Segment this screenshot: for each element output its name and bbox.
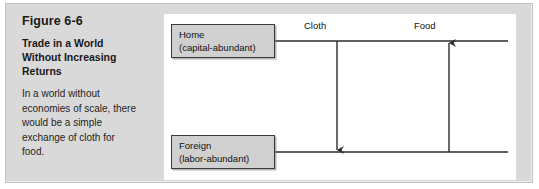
node-foreign-name: Foreign	[179, 140, 249, 153]
node-foreign-text: Foreign (labor-abundant)	[179, 140, 249, 165]
figure-panel: Figure 6-6 Trade in a World Without Incr…	[5, 3, 533, 183]
diagram-area: Home (capital-abundant) Foreign (labor-a…	[164, 14, 516, 180]
node-home-name: Home	[179, 29, 256, 42]
node-home-text: Home (capital-abundant)	[179, 29, 256, 54]
figure-caption: Figure 6-6 Trade in a World Without Incr…	[22, 14, 150, 160]
flow-label-cloth: Cloth	[304, 20, 326, 31]
figure-title: Trade in a World Without Increasing Retu…	[22, 36, 134, 78]
flow-label-food: Food	[414, 20, 436, 31]
figure-number: Figure 6-6	[22, 14, 150, 29]
node-foreign-qualifier: (labor-abundant)	[179, 153, 249, 166]
figure-container: Figure 6-6 Trade in a World Without Incr…	[0, 0, 539, 189]
node-home: Home (capital-abundant)	[171, 24, 275, 58]
node-foreign: Foreign (labor-abundant)	[171, 135, 275, 169]
figure-description: In a world without economies of scale, t…	[22, 87, 138, 160]
node-home-qualifier: (capital-abundant)	[179, 42, 256, 55]
